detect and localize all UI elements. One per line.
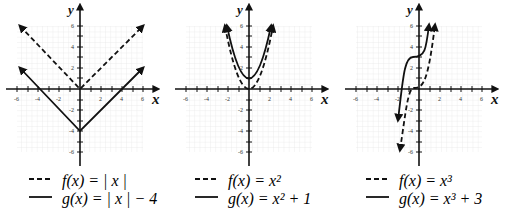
svg-text:-4: -4	[408, 128, 413, 134]
svg-text:-2: -2	[395, 96, 400, 102]
svg-text:-4: -4	[69, 128, 74, 134]
svg-text:2: 2	[438, 96, 441, 102]
legend-f-square: f(x) = x²	[228, 172, 281, 190]
svg-text:6: 6	[71, 23, 74, 29]
svg-text:-2: -2	[408, 107, 413, 113]
svg-text:4: 4	[410, 44, 413, 50]
svg-text:6: 6	[141, 96, 144, 102]
svg-text:2: 2	[71, 65, 74, 71]
svg-text:y: y	[405, 2, 413, 17]
svg-text:-6: -6	[183, 96, 188, 102]
legend-g-cube: g(x) = x³ + 3	[399, 190, 482, 208]
svg-text:2: 2	[268, 96, 271, 102]
svg-text:-2: -2	[56, 96, 61, 102]
graph-square: -6-4-2 246 642 -2-4-6 y x	[175, 2, 329, 166]
svg-text:6: 6	[480, 96, 483, 102]
svg-text:4: 4	[459, 96, 462, 102]
legend-g-square: g(x) = x² + 1	[228, 190, 311, 208]
svg-text:-6: -6	[408, 149, 413, 155]
svg-text:6: 6	[310, 96, 313, 102]
svg-text:-2: -2	[238, 107, 243, 113]
svg-text:2: 2	[410, 65, 413, 71]
svg-text:y: y	[66, 2, 74, 17]
svg-text:y: y	[235, 2, 243, 17]
svg-text:-2: -2	[69, 107, 74, 113]
svg-text:6: 6	[240, 23, 243, 29]
svg-text:x: x	[490, 91, 499, 107]
graph-abs: -6-4-2 246 642 -2-4-6 y x	[6, 2, 160, 166]
svg-text:-2: -2	[225, 96, 230, 102]
svg-text:4: 4	[240, 44, 243, 50]
svg-text:2: 2	[99, 96, 102, 102]
svg-text:-4: -4	[204, 96, 209, 102]
svg-text:2: 2	[240, 65, 243, 71]
svg-text:4: 4	[71, 44, 74, 50]
svg-text:x: x	[320, 91, 329, 107]
svg-text:6: 6	[410, 23, 413, 29]
legend-f-cube: f(x) = x³	[399, 172, 452, 190]
figure: -6-4-2 246 642 -2-4-6 y x -6-4-2 246 642…	[0, 0, 508, 208]
svg-text:-4: -4	[374, 96, 379, 102]
svg-text:-4: -4	[35, 96, 40, 102]
svg-text:4: 4	[289, 96, 292, 102]
svg-text:4: 4	[120, 96, 123, 102]
legend-g-abs: g(x) = | x | − 4	[62, 190, 157, 208]
svg-text:-6: -6	[238, 149, 243, 155]
svg-text:x: x	[151, 91, 160, 107]
legend-f-abs: f(x) = | x |	[62, 172, 127, 190]
svg-text:-6: -6	[353, 96, 358, 102]
svg-text:-6: -6	[69, 149, 74, 155]
graph-cube: -6-4-2 246 642 -2-4-6 y x	[345, 2, 499, 166]
svg-text:-6: -6	[14, 96, 19, 102]
svg-text:-4: -4	[238, 128, 243, 134]
